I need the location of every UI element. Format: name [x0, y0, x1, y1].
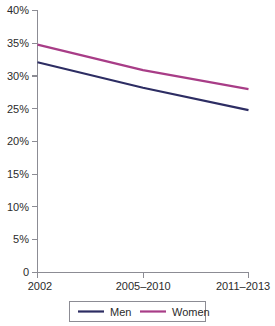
y-tick-label-40: 40%	[7, 4, 29, 16]
x-tick-label-2011-2013: 2011–2013	[216, 280, 270, 292]
y-axis-tick-labels: 40% 35% 30% 25% 20% 15% 10% 5% 0	[7, 4, 29, 278]
y-tick-label-20: 20%	[7, 135, 29, 147]
y-axis-ticks	[32, 11, 38, 273]
y-tick-label-5: 5%	[13, 233, 29, 245]
y-tick-label-10: 10%	[7, 201, 29, 213]
x-axis-tick-labels: 2002 2005–2010 2011–2013	[28, 280, 270, 292]
legend-label-men: Men	[110, 306, 131, 318]
x-axis-ticks	[38, 273, 249, 279]
line-chart: 40% 35% 30% 25% 20% 15% 10% 5% 0 2002 20…	[0, 0, 275, 326]
chart-canvas: 40% 35% 30% 25% 20% 15% 10% 5% 0 2002 20…	[0, 0, 275, 326]
legend-label-women: Women	[172, 306, 210, 318]
x-tick-label-2005-2010: 2005–2010	[116, 280, 171, 292]
y-tick-label-25: 25%	[7, 103, 29, 115]
series-line-women	[38, 45, 249, 90]
y-tick-label-15: 15%	[7, 168, 29, 180]
x-tick-label-2002: 2002	[28, 280, 52, 292]
y-tick-label-0: 0	[23, 266, 29, 278]
y-tick-label-35: 35%	[7, 37, 29, 49]
chart-legend: Men Women	[70, 302, 210, 322]
y-tick-label-30: 30%	[7, 70, 29, 82]
